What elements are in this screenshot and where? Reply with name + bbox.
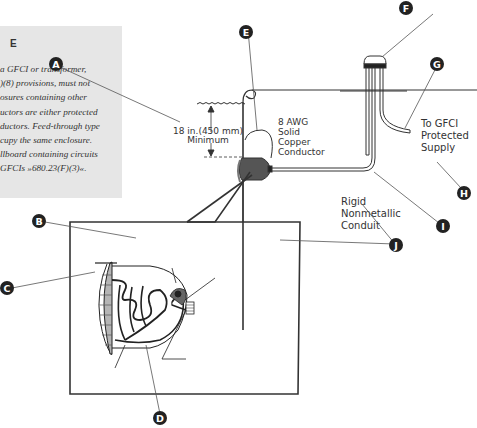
wall-luminaire [238, 158, 270, 182]
svg-text:J: J [393, 240, 398, 251]
svg-text:F: F [403, 3, 410, 14]
svg-text:B: B [35, 216, 42, 227]
svg-text:Protected: Protected [421, 130, 469, 141]
callout-C: C [0, 281, 14, 295]
callout-A: A [49, 57, 63, 71]
callout-F: F [399, 1, 413, 15]
junction-box [364, 56, 410, 155]
svg-text:Solid: Solid [278, 127, 300, 137]
svg-text:Rigid: Rigid [341, 196, 366, 207]
callout-J: J [389, 238, 403, 252]
callout-B: B [32, 214, 46, 228]
svg-text:D: D [156, 413, 164, 424]
svg-text:Conduit: Conduit [341, 220, 380, 231]
bonding-conductor [245, 130, 272, 158]
callout-H: H [457, 186, 471, 200]
luminaire-detail [95, 262, 215, 368]
svg-text:C: C [4, 283, 11, 294]
svg-text:H: H [460, 188, 468, 199]
svg-text:E: E [243, 27, 250, 38]
svg-text:A: A [52, 59, 60, 70]
svg-text:Nonmetallic: Nonmetallic [341, 208, 401, 219]
detail-box [70, 172, 300, 394]
svg-text:G: G [433, 59, 441, 70]
svg-text:To GFCI: To GFCI [420, 118, 458, 129]
callout-I: I [436, 219, 450, 233]
depth-label-minimum: Minimum [187, 135, 229, 145]
callout-D: D [153, 411, 167, 425]
callout-G: G [430, 57, 444, 71]
svg-text:Conductor: Conductor [278, 147, 325, 157]
conduit-label: Rigid Nonmetallic Conduit [341, 196, 401, 231]
pool-luminaire-diagram: 18 in.(450 mm) Minimum 8 AWG Solid Coppe… [0, 0, 477, 428]
water-surface [197, 103, 245, 105]
svg-text:Copper: Copper [278, 137, 311, 147]
svg-text:I: I [441, 221, 445, 232]
svg-text:Supply: Supply [421, 142, 455, 153]
conductor-label: 8 AWG Solid Copper Conductor [278, 117, 325, 157]
supply-label: To GFCI Protected Supply [420, 118, 469, 153]
svg-text:8 AWG: 8 AWG [278, 117, 308, 127]
callout-E: E [239, 25, 253, 39]
